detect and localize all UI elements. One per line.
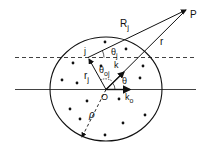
label-rj: rj (84, 70, 89, 84)
label-k: k (114, 60, 119, 70)
label-rho: ρ (88, 109, 95, 120)
label-theta: θ (122, 76, 127, 86)
label-P: P (190, 9, 197, 20)
Rj-vector (88, 10, 186, 58)
label-theta-j: θj (111, 47, 118, 60)
label-k0: ko (125, 92, 134, 104)
label-Rj: Rj (120, 18, 129, 32)
theta-j-arc (103, 51, 105, 58)
theta-oj-arc (101, 79, 113, 81)
label-j: j (83, 46, 86, 56)
label-r: r (160, 36, 164, 47)
scattering-diagram: P Rj r j θj k rj θoj θ O ko ρ (0, 0, 207, 152)
label-O: O (101, 92, 108, 102)
label-theta-oj: θoj (99, 65, 110, 78)
theta-arc (113, 83, 116, 90)
diagram-svg: P Rj r j θj k rj θoj θ O ko ρ (0, 0, 207, 152)
